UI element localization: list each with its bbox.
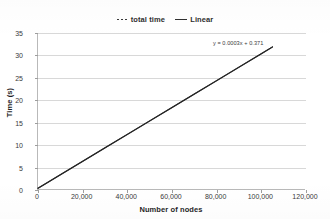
x-tick-label-100000: 100,000 <box>237 193 283 201</box>
x-tick-label-80000: 80,000 <box>193 193 239 201</box>
series-total-time <box>38 47 273 188</box>
x-tick-mark-80000 <box>217 190 218 193</box>
x-tick-label-60000: 60,000 <box>148 193 194 201</box>
trendline-equation-label: y = 0.0003x + 0.371 <box>213 40 263 46</box>
x-tick-mark-40000 <box>127 190 128 193</box>
legend-label-total-time: total time <box>131 15 165 24</box>
x-tick-label-40000: 40,000 <box>103 193 149 201</box>
x-tick-label-0: 0 <box>14 193 60 201</box>
x-tick-mark-20000 <box>83 190 84 193</box>
x-tick-mark-60000 <box>172 190 173 193</box>
solid-line-swatch-icon <box>175 16 187 23</box>
legend-entry-total-time[interactable]: total time <box>117 14 165 24</box>
x-axis-title: Number of nodes <box>37 205 305 214</box>
x-tick-label-20000: 20,000 <box>59 193 105 201</box>
series-plot <box>38 33 306 190</box>
y-tick-label-35: 35 <box>0 30 23 37</box>
y-tick-label-5: 5 <box>0 165 23 172</box>
x-tick-mark-120000 <box>306 190 307 193</box>
y-tick-label-30: 30 <box>0 52 23 59</box>
legend-label-linear: Linear <box>190 15 213 24</box>
chart-legend: total time Linear <box>0 14 330 24</box>
x-tick-label-120000: 120,000 <box>282 193 328 201</box>
y-axis-title: Time (s) <box>5 68 14 138</box>
y-tick-label-10: 10 <box>0 142 23 149</box>
x-tick-mark-100000 <box>261 190 262 193</box>
plot-area <box>37 33 305 190</box>
dashed-marker-swatch-icon <box>117 16 128 23</box>
x-tick-mark-0 <box>38 190 39 193</box>
legend-entry-linear[interactable]: Linear <box>175 14 213 24</box>
chart-container: total time Linear 35 30 25 20 15 10 5 0 … <box>0 0 330 219</box>
